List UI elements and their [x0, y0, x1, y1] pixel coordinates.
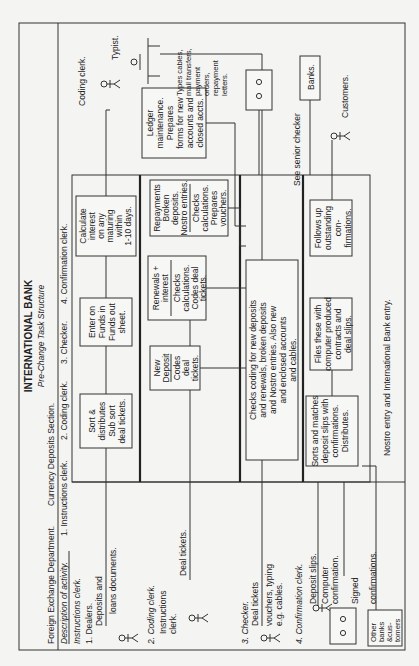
computer-right-icon [246, 70, 272, 110]
box-line: 1-10 days. [123, 206, 133, 246]
box-line: Funds in [97, 305, 107, 338]
customers-icon [331, 132, 350, 140]
dealers-doc-2: loans documents. [108, 547, 118, 614]
coding-from-1: Instructions [158, 591, 168, 634]
typist-desk-icon [131, 38, 160, 84]
box-line: vouchers. [218, 190, 228, 227]
box-line: closed accts. [195, 98, 205, 147]
box-line: outstanding [323, 206, 333, 250]
box-line: Follows up [313, 207, 323, 248]
box-line: Funds out [107, 302, 117, 340]
checker-doc-1: Deal tickets [250, 582, 260, 626]
computer-icon [330, 608, 356, 644]
confirmation-clerk-label: 4. Confirmation clerk. [294, 564, 304, 644]
checker-doc-3: e.g. cables. [274, 583, 284, 626]
task-structure-diagram: INTERNATIONAL BANK Pre-Change Task Struc… [0, 0, 419, 666]
box-line: tickets. [190, 355, 200, 381]
dealers-label: 1. Dealers. [84, 603, 94, 644]
typist-desc: orders, [202, 72, 211, 96]
box-line: deal slips. [343, 315, 353, 353]
box-line: and cables. [288, 338, 298, 381]
box-line: distributes [97, 402, 107, 441]
box-line: maintenance. [155, 97, 165, 148]
typist-desc: mail transfers, [184, 48, 193, 96]
person-icon [261, 634, 280, 642]
conf-doc-3: confirmation. [330, 555, 340, 604]
typist-label: Typist. [110, 35, 120, 60]
typist-desc: letters. [220, 73, 229, 96]
typist-desc: Types cables, [175, 50, 184, 96]
box-line: deposit slips with [320, 399, 330, 464]
column-header-4: 4. Confirmation clerk. [59, 224, 69, 304]
banks-label: Banks. [306, 64, 316, 90]
column-header-3: 3. Checker. [59, 321, 69, 364]
box-line: Deposit [161, 353, 171, 382]
box-line: Ledger [145, 110, 155, 137]
box-line: Sorts and matches [310, 396, 320, 467]
box-line: forms for new [175, 96, 185, 148]
description-label: Description of activity. [59, 562, 69, 644]
conf-doc-4: Signed [350, 577, 360, 604]
box-line: and Nostro entries. Also new [268, 305, 278, 414]
checker-doc-2: vouchers, typing [264, 564, 274, 626]
box-line: confirmations. [330, 405, 340, 458]
box-line: Enter on [87, 306, 97, 338]
diagram-subtitle: Pre-Change Task Structure [36, 284, 46, 387]
coding-clerk-label: 2. Coding clerk. [146, 585, 156, 645]
column-header-2: 2. Coding clerk. [59, 381, 69, 440]
department-label: Foreign Exchange Department. [46, 526, 56, 644]
senior-checker-note: See senior checker [292, 113, 302, 186]
dealers-doc-1: Deposits and [94, 576, 104, 626]
box-line: accounts and [185, 97, 195, 148]
box-line: interest [160, 273, 170, 302]
instructions-clerk-label: Instructions clerk. [72, 578, 82, 644]
diagram-title: INTERNATIONAL BANK [23, 279, 34, 392]
box-line: Distributes. [340, 410, 350, 453]
column-header-1: 1. Instructions clerk. [59, 460, 69, 536]
box-line: Sub sort [107, 405, 117, 437]
typist-desc: repayment [211, 59, 220, 96]
typist-desc: payment [193, 66, 202, 96]
person-icon [313, 604, 332, 612]
other-banks-line: tomers [393, 619, 402, 642]
box-line: Sort & [87, 409, 97, 433]
coding-from-2: clerk. [168, 614, 178, 634]
box-line: Files these with [313, 304, 323, 363]
person-icon [189, 614, 208, 622]
coding-clerk-right-label: Coding clerk. [77, 56, 87, 106]
box-line: firmations. [343, 208, 353, 247]
box-line: deal tickets. [117, 399, 127, 444]
customers-label: Customers. [340, 75, 350, 118]
box-line: computer produced [323, 297, 333, 371]
box-line: and renewals, broken deposits [258, 302, 268, 417]
box-line: Checks coding for new deposits [248, 300, 258, 420]
box-line: contracts and [333, 308, 343, 359]
box-line: con- [333, 220, 343, 237]
box-line: and enclosed accounts [278, 317, 288, 404]
checker-label: 3. Checker. [240, 601, 250, 644]
conf-doc-2: Computer [320, 567, 330, 604]
coding-doc: Deal tickets. [178, 530, 188, 576]
person-icon [119, 634, 138, 642]
nostro-note: Nostro entry and International Bank entr… [382, 299, 392, 456]
box-line: sheet. [117, 310, 127, 333]
box-line: Prepares [165, 106, 175, 141]
person-icon [101, 80, 120, 88]
section-label: Currency Deposits Section. [46, 403, 56, 506]
conf-doc-1: Deposit slips. [308, 553, 318, 604]
box-line: Nostro entries. [179, 180, 189, 235]
